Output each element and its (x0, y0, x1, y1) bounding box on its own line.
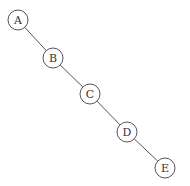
node-D: D (117, 122, 137, 142)
node-label: C (86, 88, 94, 101)
edge-B-C (60, 65, 83, 87)
edge-D-E (134, 139, 157, 161)
edge-C-D (97, 101, 120, 125)
node-label: D (123, 126, 132, 139)
node-A: A (8, 10, 28, 30)
nodes: ABCDE (8, 10, 175, 178)
node-label: B (49, 52, 57, 65)
node-C: C (80, 84, 100, 104)
node-label: A (13, 14, 23, 27)
node-B: B (43, 48, 63, 68)
node-label: E (161, 162, 169, 175)
tree-diagram: ABCDE (0, 0, 190, 186)
node-E: E (155, 158, 175, 178)
edge-A-B (25, 27, 46, 50)
